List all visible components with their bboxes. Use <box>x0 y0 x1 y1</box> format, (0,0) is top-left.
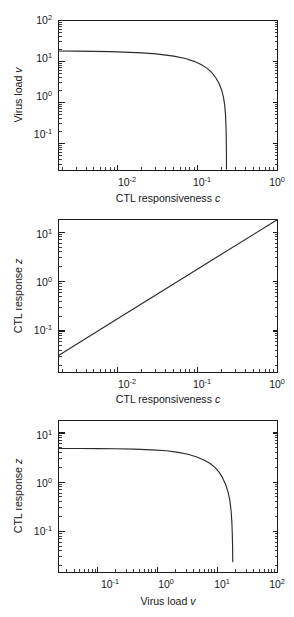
panel-2-axes <box>59 220 278 373</box>
panel-3-svg: 101 100 10-1 10-1 100 101 102 Virus load… <box>0 405 294 617</box>
ytick-label: 101 <box>36 51 52 64</box>
panel-1-yaxis-label: Virus load v <box>12 67 24 123</box>
panel-3-ticks <box>59 433 278 572</box>
ytick-label: 101 <box>36 227 52 240</box>
chart-panel-virus-load-vs-responsiveness: 102 101 100 10-1 10-2 10-1 100 CTL respo… <box>0 0 294 205</box>
ytick-label: 100 <box>36 476 52 489</box>
panel-1-ytick-labels: 102 101 100 10-1 <box>34 13 52 140</box>
ytick-label: 10-1 <box>34 524 52 537</box>
panel-3-yaxis-label: CTL response z <box>12 458 24 533</box>
panel-1-axes <box>59 21 278 171</box>
panel-2-ytick-labels: 101 100 10-1 <box>34 227 52 336</box>
panel-1-curve <box>59 51 227 169</box>
panel-3-xtick-labels: 10-1 100 101 102 <box>101 577 285 590</box>
xtick-label: 10-1 <box>193 175 211 188</box>
ytick-label: 100 <box>36 89 52 102</box>
xtick-label: 100 <box>158 577 174 590</box>
ytick-label: 100 <box>36 275 52 288</box>
panel-3-xaxis-label: Virus load v <box>140 595 196 607</box>
panel-2-curve <box>59 220 278 356</box>
ytick-label: 102 <box>36 13 52 26</box>
xtick-label: 102 <box>269 577 285 590</box>
chart-panel-ctl-response-vs-responsiveness: 101 100 10-1 10-2 10-1 100 CTL responsiv… <box>0 205 294 405</box>
ytick-label: 10-1 <box>34 127 52 140</box>
figure-root: 102 101 100 10-1 10-2 10-1 100 CTL respo… <box>0 0 294 617</box>
xtick-label: 10-1 <box>101 577 119 590</box>
ytick-label: 101 <box>36 428 52 441</box>
panel-3-axes <box>59 421 278 573</box>
panel-2-xaxis-label: CTL responsiveness c <box>116 393 221 405</box>
xtick-label: 10-1 <box>193 377 211 390</box>
ytick-label: 10-1 <box>34 323 52 336</box>
xtick-label: 101 <box>214 577 230 590</box>
panel-1-ticks <box>59 21 278 171</box>
panel-2-xtick-labels: 10-2 10-1 100 <box>118 377 285 390</box>
xtick-label: 100 <box>269 175 285 188</box>
xtick-label: 100 <box>269 377 285 390</box>
panel-3-curve <box>59 448 233 561</box>
panel-1-svg: 102 101 100 10-1 10-2 10-1 100 CTL respo… <box>0 0 294 205</box>
panel-3-ytick-labels: 101 100 10-1 <box>34 428 52 537</box>
panel-2-ticks <box>59 232 278 372</box>
panel-1-xtick-labels: 10-2 10-1 100 <box>118 175 285 188</box>
panel-2-yaxis-label: CTL response z <box>12 258 24 333</box>
panel-1-xaxis-label: CTL responsiveness c <box>116 192 221 204</box>
panel-2-svg: 101 100 10-1 10-2 10-1 100 CTL responsiv… <box>0 205 294 405</box>
xtick-label: 10-2 <box>118 175 136 188</box>
xtick-label: 10-2 <box>118 377 136 390</box>
chart-panel-ctl-response-vs-virus-load: 101 100 10-1 10-1 100 101 102 Virus load… <box>0 405 294 617</box>
